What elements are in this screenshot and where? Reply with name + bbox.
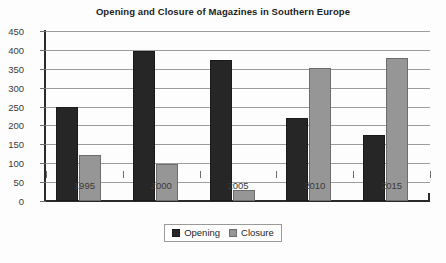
y-axis-label: 450	[0, 26, 24, 37]
y-axis-label: 300	[0, 82, 24, 93]
bar-group-2015	[353, 31, 430, 201]
bar-opening-2015	[363, 135, 385, 201]
legend-label: Opening	[184, 227, 220, 238]
x-axis-label-2005: 2005	[200, 180, 276, 191]
legend-box: OpeningClosure	[164, 224, 282, 242]
x-axis-tick	[46, 171, 47, 178]
x-axis-label-1995: 1995	[46, 180, 122, 191]
legend-item-opening[interactable]: Opening	[172, 227, 220, 238]
x-axis-tick	[353, 171, 354, 178]
chart-legend: OpeningClosure	[0, 224, 446, 242]
legend-item-closure[interactable]: Closure	[229, 227, 274, 238]
bar-group-1995	[46, 31, 123, 201]
y-axis-label: 150	[0, 139, 24, 150]
x-axis-tick	[200, 171, 201, 178]
y-axis-label: 350	[0, 63, 24, 74]
chart-title: Opening and Closure of Magazines in Sout…	[0, 6, 446, 17]
y-axis-label: 250	[0, 101, 24, 112]
opening-swatch	[172, 229, 180, 237]
y-axis-label: 100	[0, 158, 24, 169]
x-axis-label-2000: 2000	[123, 180, 199, 191]
x-axis-label-2010: 2010	[277, 180, 353, 191]
x-axis-label-2015: 2015	[354, 180, 430, 191]
bar-closure-1995	[79, 155, 101, 201]
bar-group-2005	[200, 31, 277, 201]
plot-area	[46, 31, 430, 201]
x-axis-tick	[123, 171, 124, 178]
x-axis-tick	[276, 171, 277, 178]
bar-chart: Opening and Closure of Magazines in Sout…	[0, 0, 446, 263]
y-axis-label: 200	[0, 120, 24, 131]
y-axis-label: 0	[0, 196, 24, 207]
bar-group-2010	[276, 31, 353, 201]
bar-group-2000	[123, 31, 200, 201]
y-axis-label: 50	[0, 177, 24, 188]
y-axis-label: 400	[0, 44, 24, 55]
y-axis-tick	[40, 201, 46, 202]
legend-label: Closure	[241, 227, 274, 238]
bar-opening-2000	[133, 51, 155, 201]
bar-closure-2005	[233, 190, 255, 201]
closure-swatch	[229, 229, 237, 237]
x-axis-tick	[430, 171, 431, 178]
